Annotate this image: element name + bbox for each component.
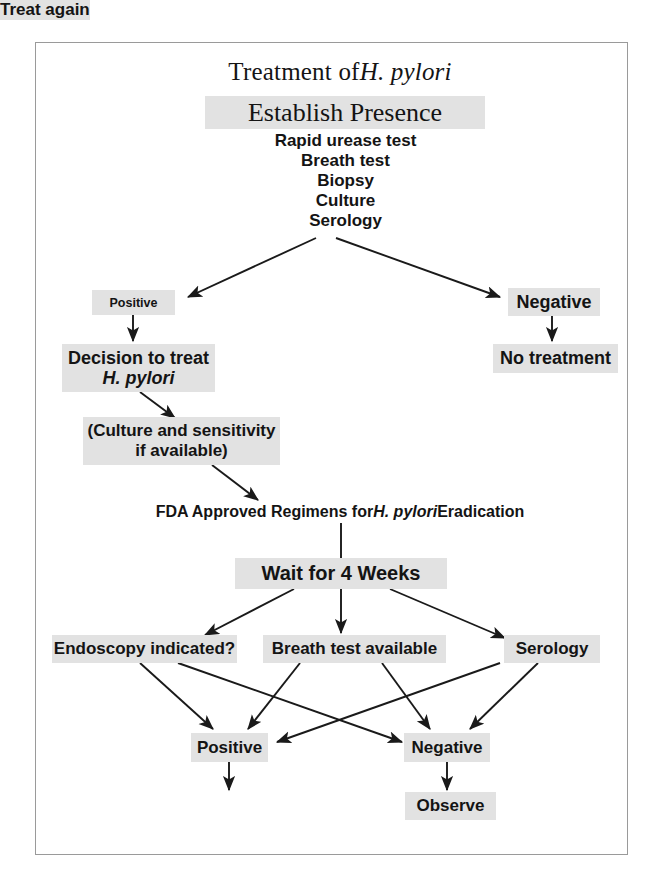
test-item: Biopsy	[317, 171, 374, 191]
page-title-lead: Treatment of	[228, 58, 359, 86]
node-observe[interactable]: Observe	[405, 792, 496, 820]
test-item: Rapid urease test	[275, 131, 417, 151]
node-decision-to-treat[interactable]: Decision to treat H. pylori	[62, 344, 215, 392]
node-serology[interactable]: Serology	[504, 635, 600, 663]
node-positive-top[interactable]: Positive	[92, 290, 175, 315]
node-treat-again-label: Treat again	[0, 0, 90, 20]
node-decision-line1: Decision to treat	[68, 348, 209, 368]
node-wait-4-weeks[interactable]: Wait for 4 Weeks	[235, 558, 447, 589]
edge-tests-positive	[188, 238, 316, 297]
node-establish-presence[interactable]: Establish Presence	[205, 96, 485, 129]
node-fda-regimens: FDA Approved Regimens for H. pylori Erad…	[140, 500, 540, 523]
page-title: Treatment of H. pylori	[180, 56, 500, 88]
node-positive-top-label: Positive	[110, 296, 158, 310]
test-item: Serology	[309, 211, 382, 231]
node-negative-bottom[interactable]: Negative	[404, 733, 490, 762]
node-negative-top-label: Negative	[516, 292, 591, 313]
node-no-treatment-label: No treatment	[500, 348, 611, 369]
edge-culture-fda	[212, 465, 258, 500]
edge-serology-positive	[277, 663, 500, 742]
node-culture-line2: if available)	[135, 441, 228, 461]
test-item: Breath test	[301, 151, 390, 171]
node-culture-sensitivity[interactable]: (Culture and sensitivity if available)	[83, 417, 280, 465]
node-endoscopy-label: Endoscopy indicated?	[54, 639, 235, 659]
node-wait-4-weeks-label: Wait for 4 Weeks	[262, 562, 421, 585]
node-negative-top[interactable]: Negative	[508, 288, 600, 316]
node-observe-label: Observe	[416, 796, 484, 816]
edge-wait-endoscopy	[205, 589, 294, 635]
node-no-treatment[interactable]: No treatment	[493, 344, 618, 373]
edge-breath-positive	[248, 663, 300, 729]
node-breath-test-available[interactable]: Breath test available	[263, 635, 446, 663]
node-treat-again[interactable]: Treat again	[0, 0, 90, 20]
node-positive-bottom-label: Positive	[197, 738, 262, 758]
node-culture-line1: (Culture and sensitivity	[88, 421, 276, 441]
node-test-list: Rapid urease test Breath test Biopsy Cul…	[213, 131, 478, 241]
node-serology-label: Serology	[516, 639, 589, 659]
edge-endoscopy-positive	[140, 663, 213, 729]
node-negative-bottom-label: Negative	[412, 738, 483, 758]
node-breath-test-label: Breath test available	[272, 639, 437, 659]
node-positive-bottom[interactable]: Positive	[191, 733, 268, 762]
edge-tests-negative	[336, 238, 500, 297]
edge-serology-negative	[470, 663, 538, 729]
edge-wait-serology	[390, 589, 505, 638]
edge-decision-culture	[140, 392, 175, 418]
page-title-species: H. pylori	[360, 58, 452, 86]
node-decision-line2: H. pylori	[102, 368, 174, 388]
node-fda-tail: Eradication	[437, 503, 524, 521]
test-item: Culture	[316, 191, 376, 211]
node-establish-presence-label: Establish Presence	[248, 98, 442, 128]
node-endoscopy-indicated[interactable]: Endoscopy indicated?	[52, 635, 237, 663]
node-fda-lead: FDA Approved Regimens for	[156, 503, 374, 521]
node-fda-species: H. pylori	[373, 503, 437, 521]
